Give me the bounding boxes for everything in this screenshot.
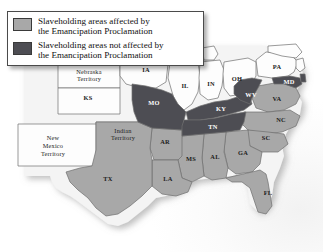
legend-label-not-affected: Slaveholding areas not affected by the E… [38,40,164,61]
map-label-la: LA [163,175,172,182]
map-label-tn: TN [208,123,217,130]
legend-label-not-affected-line2: the Emancipation Proclamation [38,50,164,60]
map-label-md: MD [283,78,294,85]
map-label-ms: MS [186,155,196,162]
legend-swatch-not-affected-icon [13,42,32,55]
map-label-va: VA [273,95,282,102]
map-label-ia: IA [142,66,150,73]
map-label-ar: AR [160,138,170,145]
legend-swatch-affected-icon [13,18,32,31]
map-label-ga: GA [238,149,248,156]
map-label-nm-terr2: Mexico [43,142,63,149]
legend-label-affected-line2: the Emancipation Proclamation [38,26,153,36]
state-delaware [300,74,306,82]
legend-item-affected: Slaveholding areas affected by the Emanc… [13,16,198,37]
map-legend: Slaveholding areas affected by the Emanc… [7,11,204,66]
emancipation-proclamation-map: NebraskaTerritoryIAILINOHPAMDKSMOKYWVVAN… [0,0,323,252]
map-label-tx: TX [103,175,112,182]
legend-label-affected: Slaveholding areas affected by the Emanc… [38,16,153,37]
map-label-ind-terr2: Territory [111,134,136,141]
map-label-fl: FL [264,189,273,196]
map-label-ks: KS [84,94,93,101]
map-label-ne-terr: Nebraska [76,68,101,75]
map-label-pa: PA [273,63,282,70]
legend-item-not-affected: Slaveholding areas not affected by the E… [13,40,198,61]
map-label-ind-terr: Indian [114,127,132,134]
map-label-al: AL [210,153,219,160]
legend-label-not-affected-line1: Slaveholding areas not affected by [38,40,164,50]
map-label-in: IN [207,80,215,87]
map-label-il: IL [181,82,188,89]
map-label-ne-terr2: Territory [77,75,102,82]
legend-label-affected-line1: Slaveholding areas affected by [38,16,153,26]
map-label-ky: KY [216,105,226,112]
map-label-mo: MO [148,99,159,106]
map-label-oh: OH [232,75,242,82]
map-label-nm-terr3: Territory [41,150,66,157]
map-label-wv: WV [245,91,257,98]
map-label-nm-terr: New [47,134,60,141]
map-label-nc: NC [276,116,286,123]
map-label-sc: SC [262,134,271,141]
